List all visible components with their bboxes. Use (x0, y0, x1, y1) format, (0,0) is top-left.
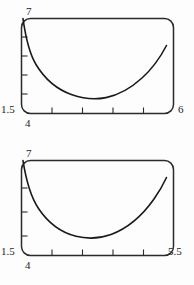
y-min-label: 1.5 (1, 246, 15, 257)
y-max-label: 7 (26, 6, 32, 17)
x-min-label: 4 (25, 118, 31, 129)
plot-frame (22, 161, 174, 256)
figure-page: 7 1.5 4 6 7 1.5 4 5.5 (0, 0, 194, 285)
x-max-label: 6 (178, 104, 184, 115)
curve-path (23, 161, 167, 238)
y-axis-ticks (22, 188, 28, 236)
upper-plot-figure: 7 1.5 4 6 (0, 0, 194, 142)
curve-path (23, 19, 167, 99)
lower-plot-figure: 7 1.5 4 5.5 (0, 142, 194, 284)
x-max-label: 5.5 (168, 246, 182, 257)
y-min-label: 1.5 (1, 104, 15, 115)
y-axis-ticks (22, 37, 28, 94)
x-axis-ticks (52, 250, 144, 256)
x-axis-ticks (52, 108, 144, 114)
x-min-label: 4 (25, 260, 31, 271)
y-max-label: 7 (26, 148, 32, 159)
